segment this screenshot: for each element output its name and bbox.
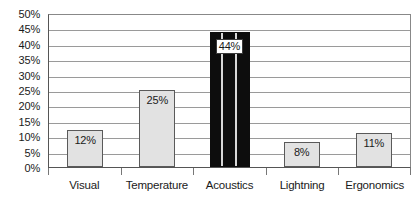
y-axis-tick-label: 40% bbox=[19, 39, 40, 50]
bar-visual[interactable]: 12% bbox=[67, 130, 103, 167]
bars-layer: 12% 25% 44% 8% 11% bbox=[49, 15, 410, 167]
bar-value-label: 12% bbox=[74, 134, 95, 146]
y-axis-tick-label: 45% bbox=[19, 24, 40, 35]
bar-value-label: 8% bbox=[294, 146, 310, 158]
bar-value-label: 11% bbox=[364, 137, 385, 149]
bar-chart: 50% 45% 40% 35% 30% 25% 20% 15% 10% 5% 0… bbox=[0, 0, 418, 206]
bar-temperature[interactable]: 25% bbox=[139, 90, 175, 167]
x-axis-tick-labels: Visual Temperature Acoustics Lightning E… bbox=[48, 178, 411, 198]
bar-value-label: 44% bbox=[216, 39, 243, 54]
x-axis-label-visual: Visual bbox=[48, 178, 121, 198]
x-axis-tick bbox=[338, 168, 339, 175]
x-axis-label-ergonomics: Ergonomics bbox=[338, 178, 411, 198]
bar-slot-visual: 12% bbox=[49, 15, 121, 167]
y-axis-tick-label: 50% bbox=[19, 9, 40, 20]
bar-slot-ergonomics: 11% bbox=[338, 15, 410, 167]
bar-lightning[interactable]: 8% bbox=[284, 142, 320, 167]
bar-slot-temperature: 25% bbox=[121, 15, 193, 167]
plot-area: 12% 25% 44% 8% 11% bbox=[48, 14, 411, 168]
y-axis-tick-label: 10% bbox=[19, 132, 40, 143]
bar-acoustics[interactable]: 44% bbox=[210, 32, 250, 168]
x-axis-tick bbox=[410, 168, 411, 175]
y-axis-tick-label: 20% bbox=[19, 101, 40, 112]
x-axis-label-acoustics: Acoustics bbox=[193, 178, 266, 198]
bar-value-label: 25% bbox=[147, 94, 168, 106]
bar-slot-lightning: 8% bbox=[266, 15, 338, 167]
y-axis-tick-label: 0% bbox=[25, 163, 41, 174]
x-axis-tick bbox=[48, 168, 49, 175]
y-axis-tick-label: 35% bbox=[19, 55, 40, 66]
bar-slot-acoustics: 44% bbox=[193, 15, 265, 167]
x-axis-tick bbox=[121, 168, 122, 175]
y-axis-tick-labels: 50% 45% 40% 35% 30% 25% 20% 15% 10% 5% 0… bbox=[0, 0, 44, 206]
x-axis-label-lightning: Lightning bbox=[266, 178, 339, 198]
bar-ergonomics[interactable]: 11% bbox=[356, 133, 392, 167]
y-axis-tick-label: 30% bbox=[19, 70, 40, 81]
y-axis-tick-label: 15% bbox=[19, 116, 40, 127]
x-axis-tick bbox=[193, 168, 194, 175]
x-axis-label-temperature: Temperature bbox=[121, 178, 194, 198]
y-axis-tick-label: 25% bbox=[19, 86, 40, 97]
y-axis-tick-label: 5% bbox=[25, 147, 41, 158]
x-axis-ticks bbox=[48, 168, 411, 175]
x-axis-tick bbox=[266, 168, 267, 175]
